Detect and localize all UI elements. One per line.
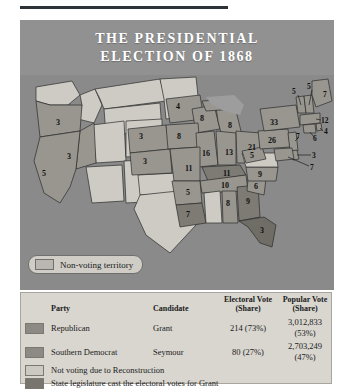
- header-popular-vote: Popular Vote (Share): [279, 293, 331, 316]
- table-row: State legislature cast the electoral vot…: [21, 377, 331, 390]
- state-louisiana: [176, 203, 206, 227]
- header-electoral-line2: (Share): [219, 304, 277, 313]
- state-california: [34, 131, 80, 203]
- state-new-york: [260, 105, 300, 131]
- state-iowa: [166, 123, 200, 149]
- republican-swatch: [25, 323, 44, 334]
- southern-democrat-swatch: [25, 347, 44, 358]
- note-not-voting: Not voting due to Reconstruction: [49, 364, 331, 377]
- page-title-line2: ELECTION OF 1868: [100, 48, 253, 66]
- results-table: Party Candidate Electoral Vote (Share) P…: [21, 293, 331, 390]
- vote-label-missouri: 11: [185, 164, 193, 173]
- header-candidate: Candidate: [151, 293, 217, 316]
- vote-label-tennessee: 10: [221, 181, 229, 190]
- table-row: Republican Grant 214 (73%) 3,012,833 (53…: [21, 316, 331, 340]
- map-panel: THE PRESIDENTIAL ELECTION OF 1868 .st{st…: [20, 20, 334, 290]
- vote-label-new-hampshire: 5: [307, 82, 311, 91]
- non-voting-territory-label: Non-voting territory: [60, 260, 133, 270]
- header-swatch-col: [21, 293, 49, 316]
- vote-label-indiana: 13: [225, 148, 233, 157]
- vote-label-louisiana: 7: [186, 210, 190, 219]
- results-legend-panel: Party Candidate Electoral Vote (Share) P…: [20, 292, 332, 384]
- state-north-carolina: [246, 167, 278, 181]
- vote-label-oregon: 3: [56, 118, 60, 127]
- header-party: Party: [49, 293, 151, 316]
- vote-label-nebraska: 3: [139, 132, 143, 141]
- row-party-southern-democrat: Southern Democrat: [49, 340, 151, 364]
- vote-label-south-carolina: 6: [254, 182, 258, 191]
- vote-label-connecticut: 6: [313, 134, 317, 143]
- state-maine: [312, 79, 332, 107]
- map-title-band: THE PRESIDENTIAL ELECTION OF 1868: [20, 20, 334, 75]
- row-electoral-democrat: 80 (27%): [217, 340, 279, 364]
- vote-label-west-virginia: 5: [250, 151, 254, 160]
- vote-label-michigan: 8: [228, 121, 232, 130]
- vote-label-delaware: 3: [312, 151, 316, 160]
- header-popular-line1: Popular Vote: [281, 295, 329, 304]
- vote-label-iowa: 8: [177, 132, 181, 141]
- vote-label-pennsylvania: 26: [268, 136, 276, 145]
- vote-label-new-york: 33: [270, 118, 278, 127]
- vote-label-vermont: 5: [292, 87, 296, 96]
- vote-label-wisconsin: 8: [200, 114, 204, 123]
- top-divider-rule: [20, 6, 228, 9]
- non-voting-territory-legend: Non-voting territory: [28, 255, 143, 274]
- vote-label-kansas: 3: [143, 157, 147, 166]
- page-title-line1: THE PRESIDENTIAL: [95, 30, 259, 48]
- non-voting-territory-swatch: [35, 259, 54, 270]
- vote-label-illinois: 16: [202, 149, 210, 158]
- vote-label-nevada: 3: [67, 152, 71, 161]
- vote-label-kentucky: 11: [223, 169, 231, 178]
- header-electoral-line1: Electoral Vote: [219, 295, 277, 304]
- state-maryland: [274, 148, 294, 161]
- vote-label-california: 5: [42, 169, 46, 178]
- row-electoral-republican: 214 (73%): [217, 316, 279, 340]
- row-candidate-grant: Grant: [151, 316, 217, 340]
- vote-label-massachusetts: 12: [321, 116, 329, 125]
- state-utah-territory: [92, 121, 126, 163]
- row-party-republican: Republican: [49, 316, 151, 340]
- us-map: .st{stroke:#2b2b2b;stroke-width:0.7;stro…: [20, 75, 334, 290]
- legislature-swatch: [25, 378, 44, 389]
- vote-label-minnesota: 4: [176, 102, 180, 111]
- table-row: Not voting due to Reconstruction: [21, 364, 331, 377]
- state-florida: [239, 217, 276, 247]
- header-popular-line2: (Share): [281, 304, 329, 313]
- state-kansas: [130, 149, 172, 175]
- row-popular-republican: 3,012,833 (53%): [279, 316, 331, 340]
- vote-label-new-jersey: 7: [296, 132, 300, 141]
- state-alabama: [222, 191, 238, 223]
- state-nebraska: [128, 125, 170, 153]
- note-legislature: State legislature cast the electoral vot…: [49, 377, 331, 390]
- vote-label-maryland: 7: [310, 163, 314, 172]
- vote-label-maine: 7: [323, 90, 327, 99]
- vote-label-north-carolina: 9: [258, 170, 262, 179]
- vote-label-rhode-island: 4: [324, 127, 328, 136]
- vote-label-georgia: 9: [246, 197, 250, 206]
- vote-label-florida: 3: [260, 226, 264, 235]
- header-electoral-vote: Electoral Vote (Share): [217, 293, 279, 316]
- vote-label-arkansas: 5: [186, 188, 190, 197]
- vote-label-alabama: 8: [226, 199, 230, 208]
- infographic-root: THE PRESIDENTIAL ELECTION OF 1868 .st{st…: [0, 0, 354, 391]
- state-washington-territory: [36, 81, 80, 105]
- table-row: Southern Democrat Seymour 80 (27%) 2,703…: [21, 340, 331, 364]
- state-mississippi: [204, 191, 222, 223]
- row-candidate-seymour: Seymour: [151, 340, 217, 364]
- state-connecticut: [303, 124, 316, 133]
- table-header-row: Party Candidate Electoral Vote (Share) P…: [21, 293, 331, 316]
- state-arizona-territory: [86, 165, 124, 203]
- not-voting-swatch: [25, 365, 44, 376]
- row-popular-democrat: 2,703,249 (47%): [279, 340, 331, 364]
